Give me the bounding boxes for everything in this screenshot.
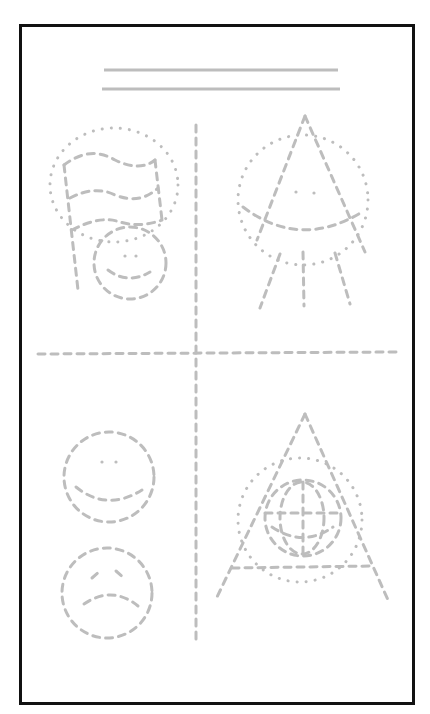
- dotted-circle: [238, 458, 362, 582]
- face-outline: [64, 432, 154, 522]
- dotted-circle: [238, 135, 368, 265]
- smile: [76, 487, 142, 500]
- eye-left: [294, 190, 297, 193]
- triangle-right: [305, 116, 365, 252]
- name-lines: [102, 70, 340, 89]
- eye-right: [312, 191, 315, 194]
- eye-left: [100, 460, 103, 463]
- flag-shape: [50, 128, 178, 290]
- face-outline: [94, 227, 166, 299]
- flag-top: [64, 154, 155, 166]
- smile: [108, 270, 150, 278]
- globe-outline: [265, 480, 341, 556]
- eye-right: [114, 460, 117, 463]
- smiley-face-small: [94, 227, 166, 299]
- leg-right: [335, 253, 350, 304]
- leg-left: [260, 254, 280, 308]
- frown: [84, 595, 138, 606]
- triangle-right: [305, 414, 388, 600]
- leg-middle: [303, 252, 304, 306]
- face-outline: [62, 548, 152, 638]
- tracing-canvas: [0, 0, 430, 714]
- flag-middle: [70, 188, 158, 199]
- triangle-left: [217, 414, 305, 597]
- eye-left: [123, 254, 126, 257]
- brow-right: [116, 571, 124, 578]
- globe-meridian: [280, 482, 324, 554]
- triangle-base: [232, 566, 372, 568]
- eye-right: [134, 254, 137, 257]
- sad-face: [62, 548, 152, 638]
- horizontal-divider: [38, 352, 397, 354]
- brow-left: [92, 571, 100, 578]
- triangle-creature: [238, 116, 368, 308]
- triangle-globe: [217, 414, 388, 600]
- happy-face: [64, 432, 154, 522]
